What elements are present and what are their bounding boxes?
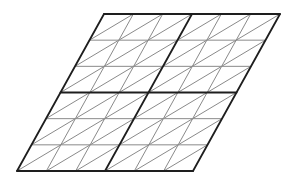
triangular-grid-rhombus	[0, 0, 293, 183]
